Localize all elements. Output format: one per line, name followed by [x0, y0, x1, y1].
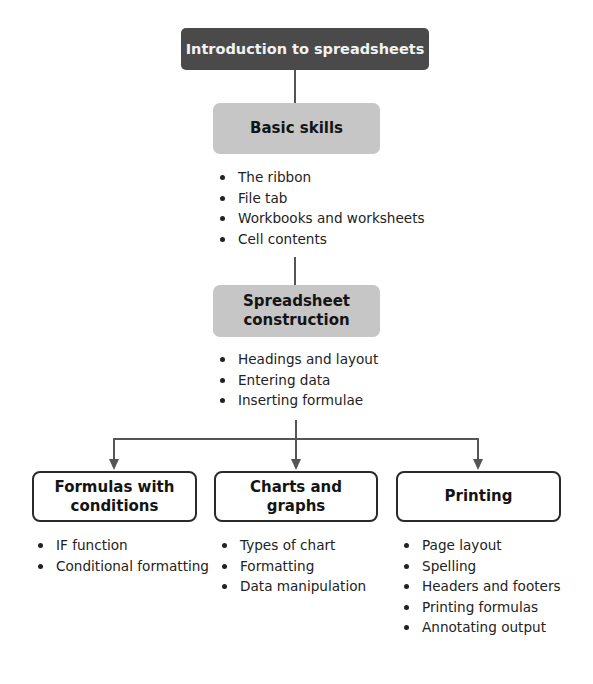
node-branch2-label-line2: graphs [267, 497, 326, 516]
list-item: Cell contents [216, 229, 425, 250]
connector-stem [295, 420, 297, 460]
list-item: File tab [216, 188, 425, 209]
charts-list: Types of chart Formatting Data manipulat… [218, 535, 366, 597]
list-item: Entering data [216, 370, 378, 391]
connector-right-drop [477, 438, 479, 460]
node-spreadsheet-construction: Spreadsheet construction [213, 285, 380, 337]
list-item: Formatting [218, 556, 366, 577]
list-item: Annotating output [400, 617, 561, 638]
node-branch2-label-line1: Charts and [250, 478, 342, 497]
list-item: IF function [34, 535, 209, 556]
root-node-introduction: Introduction to spreadsheets [181, 28, 429, 70]
arrow-down-icon [109, 459, 119, 470]
list-item: Spelling [400, 556, 561, 577]
list-item: The ribbon [216, 167, 425, 188]
connector-basic-to-construction [294, 257, 296, 285]
node-formulas-with-conditions: Formulas with conditions [32, 471, 197, 522]
node-branch1-label-line2: conditions [71, 497, 159, 516]
list-item: Inserting formulae [216, 390, 378, 411]
list-item: Page layout [400, 535, 561, 556]
node-branch1-label-line1: Formulas with [55, 478, 175, 497]
node-construction-label-line2: construction [243, 311, 349, 330]
list-item: Headers and footers [400, 576, 561, 597]
connector-root-to-basic [294, 70, 296, 103]
arrow-down-icon [291, 459, 301, 470]
list-item: Types of chart [218, 535, 366, 556]
node-basic-skills-label: Basic skills [250, 119, 343, 138]
node-charts-and-graphs: Charts and graphs [214, 471, 378, 522]
list-item: Headings and layout [216, 349, 378, 370]
arrow-down-icon [473, 459, 483, 470]
list-item: Data manipulation [218, 576, 366, 597]
construction-list: Headings and layout Entering data Insert… [216, 349, 378, 411]
formulas-list: IF function Conditional formatting [34, 535, 209, 576]
printing-list: Page layout Spelling Headers and footers… [400, 535, 561, 638]
node-branch3-label: Printing [445, 487, 513, 506]
node-construction-label-line1: Spreadsheet [243, 292, 350, 311]
node-basic-skills: Basic skills [213, 103, 380, 154]
list-item: Printing formulas [400, 597, 561, 618]
connector-horizontal [113, 438, 479, 440]
list-item: Workbooks and worksheets [216, 208, 425, 229]
connector-left-drop [113, 438, 115, 460]
root-node-label: Introduction to spreadsheets [186, 40, 425, 58]
node-printing: Printing [396, 471, 561, 522]
basic-skills-list: The ribbon File tab Workbooks and worksh… [216, 167, 425, 249]
list-item: Conditional formatting [34, 556, 209, 577]
